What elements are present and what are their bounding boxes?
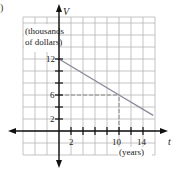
x-tick-label-10: 10: [112, 137, 122, 147]
y-axis-down-arrow-icon: [56, 160, 62, 168]
y-tick-label-12: 12: [46, 54, 55, 64]
x-axis-right-arrow-icon: [160, 128, 168, 134]
x-tick-label-2: 2: [69, 137, 74, 147]
x-axis-label: t: [168, 136, 171, 147]
dashed-guides: [59, 95, 119, 131]
x-axis-left-arrow-icon: [8, 128, 16, 134]
y-axis-up-arrow-icon: [56, 4, 62, 12]
y-tick-label-2: 2: [50, 114, 55, 124]
y-unit-label-line2: of dollars): [25, 37, 62, 47]
y-tick-label-6: 6: [50, 90, 55, 100]
y-axis-label: V: [63, 6, 71, 17]
x-tick-label-14: 14: [137, 137, 147, 147]
x-unit-label: (years): [119, 147, 144, 157]
y-unit-label-line1: (thousands: [25, 26, 64, 36]
tick-marks: [55, 59, 143, 135]
line-chart: (thousands of dollars) V t 12 6 2 2 10 1…: [0, 0, 175, 182]
